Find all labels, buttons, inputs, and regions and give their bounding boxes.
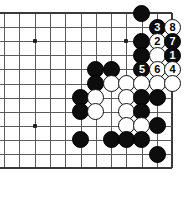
- move-number-label: 5: [139, 64, 145, 75]
- stone-black[interactable]: [149, 89, 166, 106]
- move-number-label: 6: [154, 64, 160, 75]
- move-number-label: 2: [154, 36, 160, 47]
- grid-line-horizontal: [0, 27, 172, 28]
- board-edge-bottom: [0, 167, 172, 169]
- stone-black[interactable]: [149, 146, 166, 163]
- stone-black[interactable]: [133, 5, 150, 22]
- grid-line-vertical: [50, 13, 51, 168]
- move-number-label: 8: [169, 22, 175, 33]
- grid-line-vertical: [35, 13, 36, 168]
- stone-black[interactable]: [72, 131, 89, 148]
- stone-black[interactable]: [149, 117, 166, 134]
- move-number-label: 7: [169, 36, 175, 47]
- star-point: [33, 39, 37, 43]
- stone-white[interactable]: [87, 103, 104, 120]
- move-number-label: 4: [169, 64, 175, 75]
- move-number-label: 3: [154, 22, 160, 33]
- grid-line-vertical: [19, 13, 20, 168]
- stone-black[interactable]: [133, 131, 150, 148]
- stone-white[interactable]: [164, 75, 181, 92]
- move-number-label: 1: [169, 50, 175, 61]
- grid-line-vertical: [4, 13, 5, 168]
- go-board-diagram: 38271564: [0, 0, 188, 200]
- grid-line-horizontal: [0, 154, 172, 155]
- grid-line-vertical: [65, 13, 66, 168]
- star-point: [124, 39, 128, 43]
- star-point: [33, 124, 37, 128]
